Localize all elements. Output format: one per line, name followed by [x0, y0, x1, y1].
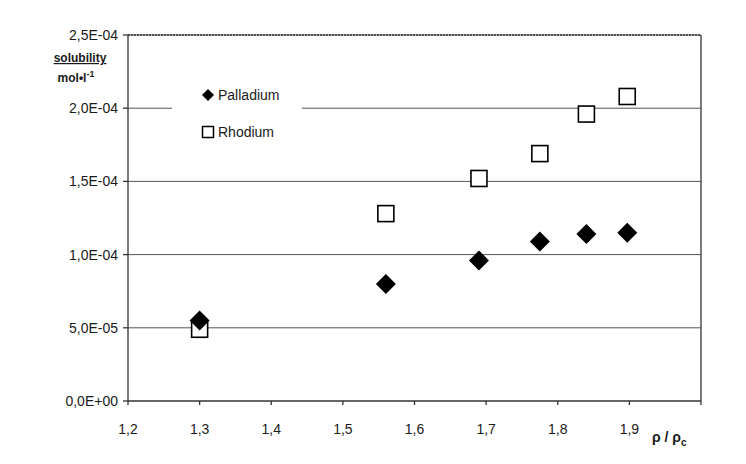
data-point-filled-diamond [469, 250, 489, 270]
y-tick-label: 0,0E+00 [65, 393, 118, 409]
y-tick-label: 1,0E-04 [69, 247, 118, 263]
y-tick-label: 2,5E-04 [69, 27, 118, 43]
legend: Palladium Rhodium [172, 80, 302, 152]
svg-text:Rhodium: Rhodium [218, 124, 274, 140]
data-point-filled-diamond [530, 231, 550, 251]
data-point-filled-diamond [376, 274, 396, 294]
x-tick-label: 1,4 [262, 421, 282, 437]
data-point-open-square [471, 170, 487, 186]
open-square-icon [203, 127, 214, 138]
y-axis-label-line1: solubility [54, 51, 107, 65]
scatter-chart: 0,0E+005,0E-051,0E-041,5E-042,0E-042,5E-… [0, 0, 746, 464]
x-tick-label: 1,2 [118, 421, 138, 437]
x-tick-label: 1,7 [476, 421, 496, 437]
x-axis-ticks: 1,21,31,41,51,61,71,81,9 [118, 401, 701, 437]
svg-text:ρ / ρc: ρ / ρc [652, 429, 687, 448]
y-axis-label-line2: mol•l-1 [58, 69, 95, 85]
data-point-filled-diamond [617, 223, 637, 243]
x-tick-label: 1,5 [333, 421, 353, 437]
data-point-filled-diamond [576, 224, 596, 244]
gridlines [128, 35, 701, 328]
x-tick-label: 1,8 [548, 421, 568, 437]
y-tick-label: 2,0E-04 [69, 100, 118, 116]
data-point-open-square [532, 146, 548, 162]
y-axis-label: solubility mol•l-1 [54, 51, 107, 85]
x-tick-label: 1,3 [190, 421, 210, 437]
x-tick-label: 1,6 [405, 421, 425, 437]
x-axis-label: ρ / ρc [652, 429, 687, 448]
data-point-open-square [619, 88, 635, 104]
x-tick-label: 1,9 [620, 421, 640, 437]
y-tick-label: 1,5E-04 [69, 173, 118, 189]
y-tick-label: 5,0E-05 [69, 320, 118, 336]
data-point-open-square [378, 206, 394, 222]
legend-item-rhodium: Rhodium [203, 124, 275, 140]
svg-text:Palladium: Palladium [218, 87, 279, 103]
data-point-open-square [578, 106, 594, 122]
series-palladium [190, 223, 638, 331]
